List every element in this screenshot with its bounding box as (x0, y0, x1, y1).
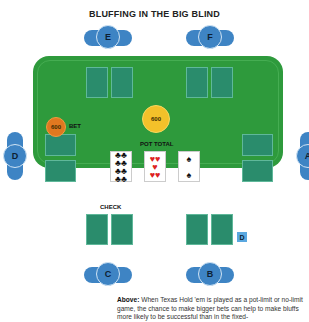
diagram-title: BLUFFING IN THE BIG BLIND (0, 9, 309, 19)
card-back (45, 160, 76, 182)
seat-b: B (186, 264, 234, 286)
caption: Above: When Texas Hold 'em is played as … (117, 296, 307, 322)
card-back (211, 214, 233, 245)
card-back (86, 67, 108, 98)
bet-chip: 600 (46, 117, 66, 137)
card-back (211, 67, 233, 98)
card-back (45, 134, 76, 156)
card-back (86, 214, 108, 245)
card-back (242, 160, 273, 182)
board-card-3: ♠♠ (178, 151, 200, 182)
dealer-button: D (237, 232, 247, 242)
board-card-2: ♥♥♥♥♥ (144, 151, 166, 182)
seat-f: F (186, 27, 234, 49)
board-card-1: ♣♣♣♣♣♣♣♣ (110, 151, 132, 182)
card-back (186, 67, 208, 98)
check-label: CHECK (100, 204, 121, 210)
bet-label: BET (69, 123, 81, 129)
card-back (111, 214, 133, 245)
card-back (242, 134, 273, 156)
seat-d: D (4, 132, 26, 180)
seat-c: C (84, 264, 132, 286)
pot-label: POT TOTAL (140, 141, 173, 147)
card-back (111, 67, 133, 98)
card-back (186, 214, 208, 245)
seat-e: E (84, 27, 132, 49)
seat-a: A (297, 132, 309, 180)
pot-chip: 600 (142, 105, 170, 133)
